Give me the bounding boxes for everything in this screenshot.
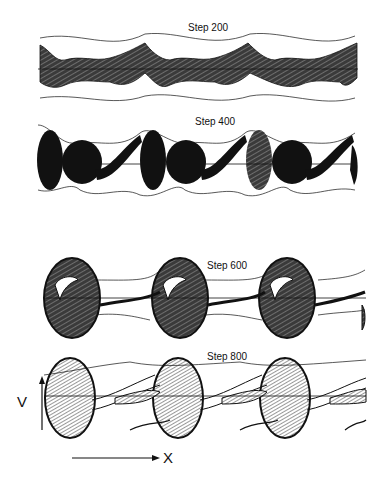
panel-label-step-200: Step 200	[188, 22, 228, 33]
x-axis-label: X	[163, 449, 173, 466]
panel-label-step-600: Step 600	[207, 260, 247, 271]
panel-label-step-800: Step 800	[207, 351, 247, 362]
panel-step-400	[37, 125, 358, 196]
v-axis-label: V	[17, 393, 27, 410]
panel-step-600	[44, 258, 366, 338]
phase-space-figure	[0, 0, 386, 480]
panel-label-step-400: Step 400	[195, 116, 235, 127]
panel-step-200	[38, 33, 358, 101]
panel-step-800	[44, 358, 366, 438]
